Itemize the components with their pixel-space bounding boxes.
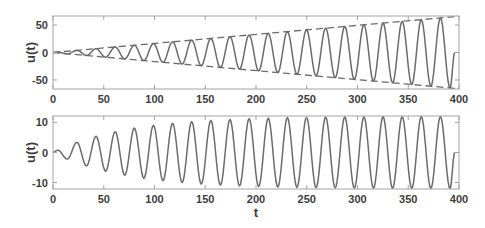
y-tick-label: 0 [42, 147, 48, 159]
plot-area [53, 16, 459, 89]
x-tick-label: 150 [196, 193, 214, 205]
x-tick-label: 100 [145, 193, 163, 205]
y-tick-label: 0 [42, 47, 48, 59]
x-tick-label: 100 [145, 93, 163, 105]
x-tick-label: 300 [348, 93, 366, 105]
x-tick-label: 400 [450, 193, 468, 205]
x-tick-label: 150 [196, 93, 214, 105]
y-tick-label: 10 [36, 116, 48, 128]
x-tick-label: 250 [298, 193, 316, 205]
x-tick-label: 350 [399, 93, 417, 105]
y-tick-label: -10 [32, 177, 48, 189]
figure-canvas: 050100150200250300350400-50050u(t)050100… [0, 0, 485, 228]
x-axis-label: t [254, 205, 259, 220]
x-tick-label: 50 [98, 93, 110, 105]
x-tick-label: 350 [399, 193, 417, 205]
figure: 050100150200250300350400-50050u(t)050100… [0, 0, 485, 228]
top-plot: 050100150200250300350400-50050u(t) [23, 16, 468, 105]
y-axis-label: u(t) [23, 42, 38, 63]
x-tick-label: 200 [247, 93, 265, 105]
x-tick-label: 0 [50, 193, 56, 205]
x-tick-label: 300 [348, 193, 366, 205]
x-tick-label: 250 [298, 93, 316, 105]
y-axis-label: u(t) [23, 142, 38, 163]
y-tick-label: -50 [32, 74, 48, 86]
x-tick-label: 50 [98, 193, 110, 205]
bottom-plot: 050100150200250300350400-10010u(t)t [23, 116, 468, 220]
x-tick-label: 0 [50, 93, 56, 105]
x-tick-label: 400 [450, 93, 468, 105]
x-tick-label: 200 [247, 193, 265, 205]
y-tick-label: 50 [36, 19, 48, 31]
